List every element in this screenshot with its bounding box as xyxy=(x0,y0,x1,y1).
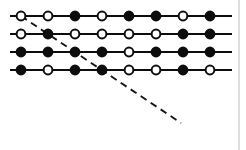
node-filled-r3-c6 xyxy=(151,47,160,56)
node-open-r4-c8 xyxy=(206,66,215,75)
node-filled-r3-c1 xyxy=(16,47,25,56)
node-open-r2-c4 xyxy=(98,30,107,39)
node-open-r2-c3 xyxy=(71,30,80,39)
node-filled-r4-c4 xyxy=(97,65,106,74)
node-filled-r1-c8 xyxy=(205,11,214,20)
node-open-r3-c5 xyxy=(125,48,134,57)
node-filled-r2-c7 xyxy=(178,29,187,38)
node-filled-r4-c3 xyxy=(70,65,79,74)
row-lines-group xyxy=(10,16,232,70)
node-open-r4-c5 xyxy=(125,66,134,75)
lattice-diagram xyxy=(0,0,246,150)
node-open-r4-c6 xyxy=(152,66,161,75)
node-filled-r4-c7 xyxy=(178,65,187,74)
node-filled-r3-c2 xyxy=(43,47,52,56)
node-open-r2-c1 xyxy=(17,30,26,39)
node-open-r2-c5 xyxy=(125,30,134,39)
figure-canvas xyxy=(0,0,246,150)
node-open-r1-c2 xyxy=(44,12,53,21)
nodes-group xyxy=(16,11,214,74)
node-filled-r1-c3 xyxy=(70,11,79,20)
node-filled-r1-c5 xyxy=(124,11,133,20)
node-filled-r3-c3 xyxy=(70,47,79,56)
node-filled-r1-c6 xyxy=(151,11,160,20)
node-open-r1-c1 xyxy=(17,12,26,21)
node-filled-r2-c2 xyxy=(43,29,52,38)
node-open-r1-c7 xyxy=(179,12,188,21)
node-filled-r3-c4 xyxy=(97,47,106,56)
node-filled-r3-c7 xyxy=(178,47,187,56)
node-filled-r2-c8 xyxy=(205,29,214,38)
node-open-r4-c2 xyxy=(44,66,53,75)
node-filled-r3-c8 xyxy=(205,47,214,56)
node-filled-r4-c1 xyxy=(16,65,25,74)
node-open-r2-c6 xyxy=(152,30,161,39)
node-open-r1-c4 xyxy=(98,12,107,21)
